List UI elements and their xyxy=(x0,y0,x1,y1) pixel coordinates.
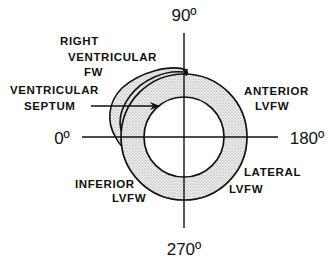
label-lateral-lvfw: LATERAL LVFW xyxy=(229,166,301,195)
axis-label-0: 0º xyxy=(54,129,70,148)
label-line: SEPTUM xyxy=(24,100,76,112)
label-inferior-lvfw: INFERIOR LVFW xyxy=(75,178,146,204)
label-line: INFERIOR xyxy=(75,178,135,190)
axis-label-180: 180º xyxy=(290,129,325,148)
axis-label-90: 90º xyxy=(171,6,196,25)
label-ventricular-septum: VENTRICULAR SEPTUM xyxy=(10,84,99,112)
label-line: ANTERIOR xyxy=(244,85,309,97)
label-line: LVFW xyxy=(229,183,263,195)
ventricle-cross-section-diagram: 90º 0º 180º 270º RIGHT VENTRICULAR FW VE… xyxy=(0,0,334,262)
label-line: FW xyxy=(84,66,103,78)
axis-label-270: 270º xyxy=(167,240,202,259)
label-line: VENTRICULAR xyxy=(68,51,157,63)
label-line: RIGHT xyxy=(60,35,99,47)
label-line: LATERAL xyxy=(244,166,301,178)
label-anterior-lvfw: ANTERIOR LVFW xyxy=(244,85,309,112)
label-right-ventricular-fw: RIGHT VENTRICULAR FW xyxy=(60,35,157,78)
label-line: LVFW xyxy=(255,100,289,112)
label-line: VENTRICULAR xyxy=(10,84,99,96)
label-line: LVFW xyxy=(112,192,146,204)
